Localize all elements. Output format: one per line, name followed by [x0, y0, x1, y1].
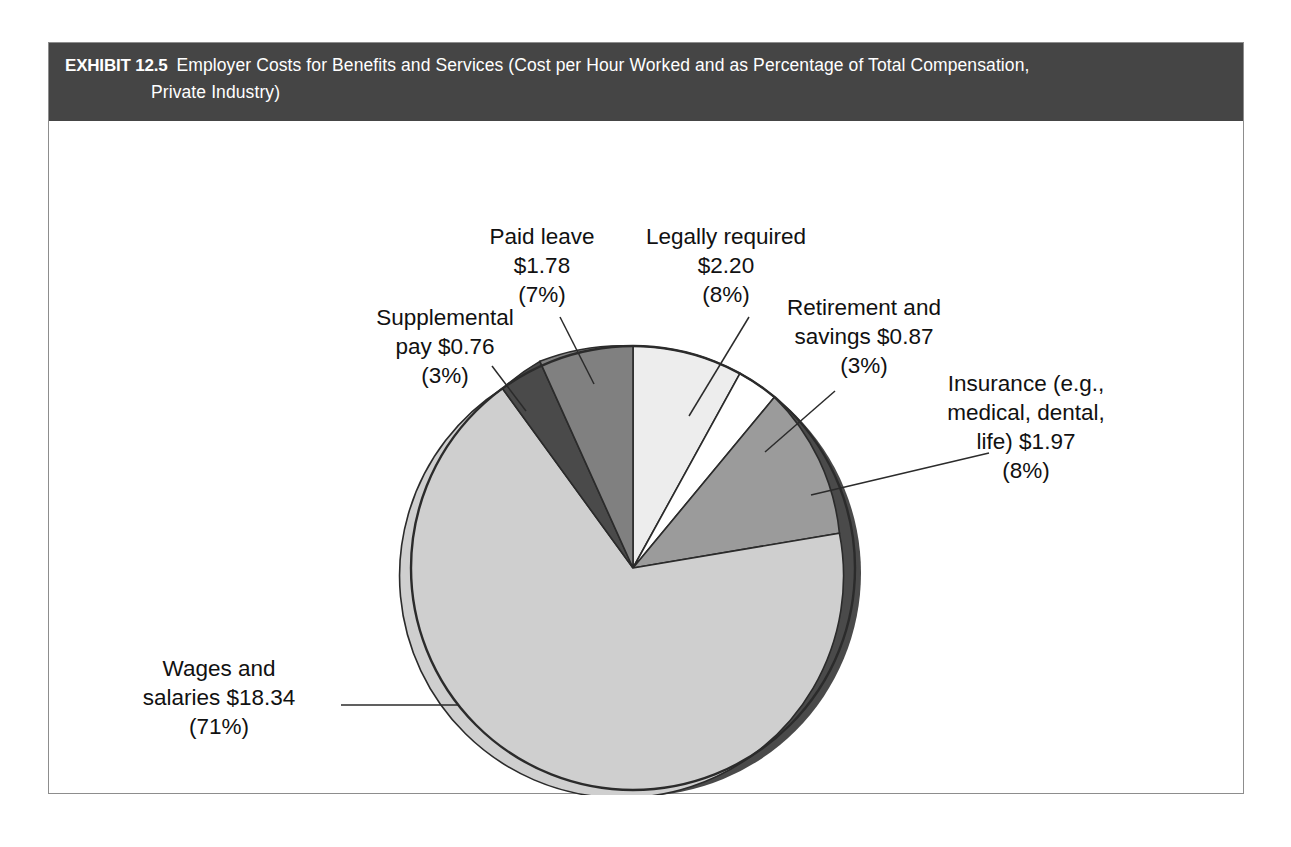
- label-paid-leave-line-1: Paid leave: [447, 222, 637, 251]
- label-supplemental-pay-line-2: pay $0.76: [335, 332, 555, 361]
- label-paid-leave-line-2: $1.78: [447, 251, 637, 280]
- label-insurance-line-2: medical, dental,: [901, 398, 1151, 427]
- exhibit-title-line-1: EXHIBIT 12.5Employer Costs for Benefits …: [65, 52, 1225, 79]
- label-wages-and-salaries: Wages and salaries $18.34 (71%): [89, 654, 349, 741]
- label-retirement-savings: Retirement and savings $0.87 (3%): [739, 293, 989, 380]
- label-retirement-savings-line-2: savings $0.87: [739, 322, 989, 351]
- label-insurance: Insurance (e.g., medical, dental, life) …: [901, 369, 1151, 485]
- label-supplemental-pay-line-1: Supplemental: [335, 303, 555, 332]
- label-paid-leave: Paid leave $1.78 (7%): [447, 222, 637, 309]
- label-legally-required-line-1: Legally required: [621, 222, 831, 251]
- label-retirement-savings-line-1: Retirement and: [739, 293, 989, 322]
- label-supplemental-pay: Supplemental pay $0.76 (3%): [335, 303, 555, 390]
- label-legally-required-line-2: $2.20: [621, 251, 831, 280]
- exhibit-caption-line-2: Private Industry): [65, 79, 1225, 106]
- label-insurance-line-1: Insurance (e.g.,: [901, 369, 1151, 398]
- exhibit-number-tag: EXHIBIT 12.5: [65, 56, 167, 75]
- label-wages-and-salaries-line-3: (71%): [89, 712, 349, 741]
- label-insurance-line-3: life) $1.97: [901, 427, 1151, 456]
- exhibit-header-bar: EXHIBIT 12.5Employer Costs for Benefits …: [49, 43, 1243, 121]
- label-supplemental-pay-line-3: (3%): [335, 361, 555, 390]
- label-wages-and-salaries-line-2: salaries $18.34: [89, 683, 349, 712]
- label-insurance-line-4: (8%): [901, 456, 1151, 485]
- label-wages-and-salaries-line-1: Wages and: [89, 654, 349, 683]
- exhibit-caption-line-1: Employer Costs for Benefits and Services…: [176, 55, 1029, 75]
- exhibit-frame: EXHIBIT 12.5Employer Costs for Benefits …: [48, 42, 1244, 794]
- pie-chart-area: Paid leave $1.78 (7%) Legally required $…: [49, 121, 1243, 795]
